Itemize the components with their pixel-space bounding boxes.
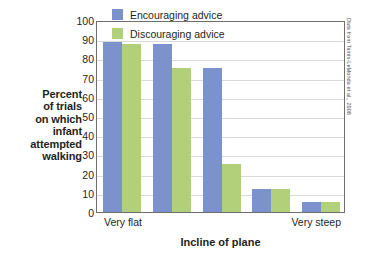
y-axis-label-line: attempted (6, 138, 82, 150)
bar-encouraging (203, 68, 222, 212)
plot-area (96, 21, 345, 213)
y-axis-label-line: on which (6, 113, 82, 125)
bar-chart-figure: Percent of trials on which infant attemp… (0, 0, 375, 265)
bar-group (153, 22, 191, 212)
y-tick-label: 60 (74, 92, 94, 103)
bar-discouraging (172, 68, 191, 212)
bar-series-container (97, 22, 344, 212)
x-tick-very-flat: Very flat (104, 216, 142, 228)
legend: Encouraging adviceDiscouraging advice (112, 6, 244, 44)
legend-label: Encouraging advice (130, 9, 222, 21)
bar-encouraging (252, 189, 271, 212)
x-tick-very-steep: Very steep (291, 216, 341, 228)
legend-swatch-icon (112, 9, 123, 20)
y-tick-label: 0 (74, 208, 94, 219)
y-axis-tick-labels: 0102030405060708090100 (74, 15, 94, 219)
bar-group (302, 22, 340, 212)
bar-discouraging (122, 44, 141, 212)
y-tick-label: 40 (74, 131, 94, 142)
bar-encouraging (302, 202, 321, 212)
bar-discouraging (271, 189, 290, 212)
y-axis-label-line: Percent (6, 88, 82, 100)
y-tick-label: 90 (74, 35, 94, 46)
bar-discouraging (222, 164, 241, 212)
source-attribution: Data from Tamis-LeMonda et al., 2008 (346, 18, 352, 128)
y-axis-label: Percent of trials on which infant attemp… (6, 88, 82, 162)
bar-encouraging (153, 44, 172, 212)
bar-encouraging (103, 42, 122, 212)
y-tick-label: 100 (74, 16, 94, 27)
x-axis-tick-labels: Very flat Very steep (96, 216, 345, 232)
y-tick-label: 10 (74, 188, 94, 199)
y-tick-label: 80 (74, 54, 94, 65)
y-axis-label-line: walking (6, 150, 82, 162)
y-axis-label-line: of trials (6, 100, 82, 112)
y-tick-label: 30 (74, 150, 94, 161)
y-axis-label-line: infant (6, 125, 82, 137)
bar-discouraging (321, 202, 340, 212)
x-axis-label: Incline of plane (96, 236, 345, 248)
legend-label: Discouraging advice (130, 28, 225, 40)
legend-item: Discouraging advice (112, 25, 244, 42)
y-tick-label: 20 (74, 169, 94, 180)
bar-group (103, 22, 141, 212)
legend-item: Encouraging advice (112, 6, 244, 23)
bar-group (252, 22, 290, 212)
y-tick-label: 70 (74, 73, 94, 84)
legend-swatch-icon (112, 28, 123, 39)
bar-group (203, 22, 241, 212)
y-tick-label: 50 (74, 112, 94, 123)
